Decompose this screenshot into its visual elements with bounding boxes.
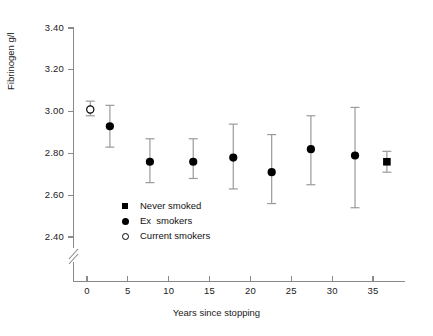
marker-open-circle — [87, 106, 94, 113]
x-tick-label: 0 — [67, 285, 107, 296]
data-point — [145, 139, 154, 183]
x-tick-label: 30 — [312, 285, 352, 296]
data-point — [351, 107, 360, 207]
y-axis-break-icon — [69, 249, 78, 264]
marker-filled-circle — [229, 153, 237, 161]
data-point — [306, 116, 315, 185]
data-point — [189, 139, 198, 179]
marker-filled-circle — [351, 151, 359, 159]
data-point — [229, 124, 238, 189]
legend-label: Never smoked — [140, 200, 201, 211]
legend-item-current-smokers: Current smokers — [119, 228, 210, 243]
open-circle-icon — [119, 229, 133, 243]
filled-square-icon — [119, 199, 133, 213]
x-tick-label: 10 — [149, 285, 189, 296]
y-tick-label: 3.20 — [22, 63, 64, 74]
legend-label: Current smokers — [140, 230, 210, 241]
x-tick-label: 5 — [108, 285, 148, 296]
figure: Fibrinogen g/l Years since stopping 2.40… — [0, 0, 433, 336]
data-points — [86, 101, 392, 208]
x-tick-label: 35 — [353, 285, 393, 296]
series-never-smoked — [382, 151, 391, 172]
series-ex-smokers — [105, 105, 359, 207]
y-tick-label: 2.40 — [22, 231, 64, 242]
data-point — [86, 101, 95, 116]
marker-filled-circle — [268, 168, 276, 176]
x-ticks — [87, 276, 373, 282]
x-tick-label: 15 — [190, 285, 230, 296]
marker-filled-circle — [189, 158, 197, 166]
series-current-smokers — [86, 101, 95, 116]
legend-label: Ex smokers — [140, 215, 192, 226]
x-tick-label: 20 — [230, 285, 270, 296]
y-tick-label: 3.00 — [22, 105, 64, 116]
y-tick-label: 2.60 — [22, 189, 64, 200]
data-point — [267, 135, 276, 204]
x-tick-label: 25 — [271, 285, 311, 296]
y-axis-title: Fibrinogen g/l — [5, 0, 16, 90]
x-axis-title: Years since stopping — [0, 307, 433, 318]
marker-filled-square — [383, 158, 391, 166]
filled-circle-icon — [119, 214, 133, 228]
data-point — [382, 151, 391, 172]
marker-filled-circle — [307, 145, 315, 153]
marker-filled-circle — [146, 158, 154, 166]
marker-filled-circle — [106, 122, 114, 130]
y-ticks — [68, 28, 74, 237]
y-tick-label: 3.40 — [22, 22, 64, 33]
legend-item-ex-smokers: Ex smokers — [119, 213, 210, 228]
data-point — [105, 105, 114, 147]
y-tick-label: 2.80 — [22, 147, 64, 158]
legend-item-never-smoked: Never smoked — [119, 198, 210, 213]
legend: Never smoked Ex smokers Current smokers — [119, 198, 210, 243]
